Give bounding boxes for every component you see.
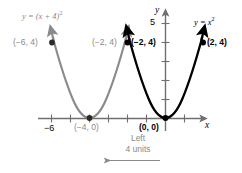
point-minus6-4 bbox=[49, 40, 55, 46]
point-label-minus6-4: (−6, 4) bbox=[13, 38, 38, 47]
point-label-minus2-4-gray: (−2, 4) bbox=[92, 38, 117, 47]
x-tick-label-minus6: −6 bbox=[44, 124, 54, 133]
x-axis bbox=[38, 115, 203, 123]
equation-label-shifted-exponent: 2 bbox=[59, 10, 62, 16]
equation-label-original: y = x2 bbox=[194, 16, 215, 26]
y-axis-label: y bbox=[155, 6, 159, 16]
equation-label-shifted: y = (x + 4)2 bbox=[22, 10, 62, 20]
x-axis-label: x bbox=[205, 121, 209, 131]
plotted-points bbox=[49, 40, 206, 122]
y-axis bbox=[162, 13, 170, 131]
equation-label-shifted-text: y = (x + 4) bbox=[22, 11, 59, 21]
point-2-4 bbox=[200, 40, 206, 46]
point-label-minus4-0: (−4, 0) bbox=[74, 123, 99, 132]
point-minus4-0 bbox=[87, 115, 93, 121]
equation-label-original-exponent: 2 bbox=[212, 16, 215, 22]
shift-annotation-line1: Left bbox=[112, 133, 164, 144]
point-minus2-4 bbox=[125, 40, 131, 46]
equation-label-original-text: y = x bbox=[194, 17, 212, 27]
shift-annotation-line2: 4 units bbox=[112, 144, 164, 155]
shift-annotation: Left 4 units bbox=[112, 133, 164, 154]
point-0-0 bbox=[163, 115, 169, 121]
point-label-0-0: (0, 0) bbox=[139, 123, 159, 132]
point-label-2-4: (2, 4) bbox=[207, 38, 227, 47]
y-tick-label-5: 5 bbox=[150, 18, 155, 27]
parabola-shift-figure: y x −6 5 y = (x + 4)2 y = x2 (−6, 4) (−4… bbox=[0, 0, 242, 173]
point-label-minus2-4-black: (−2, 4) bbox=[131, 38, 156, 47]
